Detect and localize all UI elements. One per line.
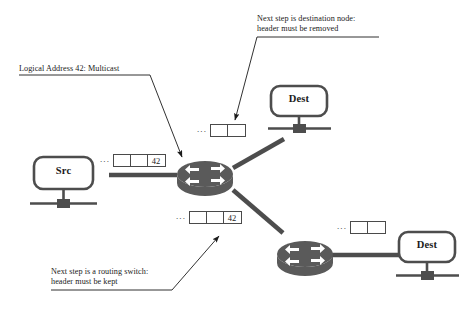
router-right-top xyxy=(277,241,333,267)
annotation-routing-switch: Next step is a routing switch: header mu… xyxy=(51,267,148,288)
packet-src-to-router: ... 42 xyxy=(100,154,166,167)
link-router-left-to-dest-top xyxy=(233,139,284,168)
packet-router-to-router: ... 42 xyxy=(176,211,242,224)
packet-cell xyxy=(228,125,245,136)
annotation-routing-switch-line1: Next step is a routing switch: xyxy=(51,267,148,277)
annotation-routing-switch-line2: header must be kept xyxy=(51,277,148,287)
packet-router-to-dest-bottom-cells xyxy=(350,221,386,234)
node-dest-bottom-connector xyxy=(421,271,434,280)
packet-cell xyxy=(131,155,148,166)
annotation-destination-node: Next step is destination node: header mu… xyxy=(257,14,355,35)
packet-router-to-dest-top-ellipsis: ... xyxy=(197,125,207,136)
packet-router-to-dest-bottom-ellipsis: ... xyxy=(337,222,347,233)
packet-cell xyxy=(211,125,228,136)
node-dest-top-label: Dest xyxy=(271,93,327,104)
node-dest-top-connector xyxy=(293,124,306,133)
annotation-logical-address-line1: Logical Address 42: Multicast xyxy=(19,64,119,74)
packet-router-to-router-ellipsis: ... xyxy=(176,212,186,223)
node-src-connector xyxy=(57,199,70,208)
router-left-top xyxy=(177,161,233,187)
packet-cell xyxy=(207,212,224,223)
network-diagram: Src Dest Dest Next step is destination n… xyxy=(0,0,467,311)
annotation-destination-node-line1: Next step is destination node: xyxy=(257,14,355,24)
packet-router-to-dest-top-cells xyxy=(210,124,246,137)
node-dest-bottom-label: Dest xyxy=(399,239,455,250)
packet-src-to-router-ellipsis: ... xyxy=(100,155,110,166)
node-src-label: Src xyxy=(34,165,93,176)
annotation-logical-address: Logical Address 42: Multicast xyxy=(19,64,119,74)
leader-routing-switch xyxy=(172,236,219,290)
packet-cell xyxy=(190,212,207,223)
packet-cell-address: 42 xyxy=(148,155,165,166)
packet-cell xyxy=(368,222,385,233)
packet-cell xyxy=(351,222,368,233)
packet-router-to-dest-bottom: ... xyxy=(337,221,386,234)
diagram-graphics xyxy=(0,0,467,311)
packet-router-to-router-cells: 42 xyxy=(189,211,242,224)
router-left xyxy=(177,161,233,196)
packet-cell xyxy=(114,155,131,166)
router-right xyxy=(277,241,333,276)
leader-destination-node xyxy=(235,37,257,120)
packet-src-to-router-cells: 42 xyxy=(113,154,166,167)
annotation-destination-node-line2: header must be removed xyxy=(257,24,355,34)
leader-logical-address xyxy=(150,75,182,157)
packet-router-to-dest-top: ... xyxy=(197,124,246,137)
packet-cell-address: 42 xyxy=(224,212,241,223)
